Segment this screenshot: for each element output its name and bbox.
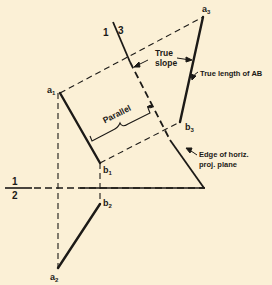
edge-plane-label-1: Edge of horiz. [199,150,249,159]
edge-plane-arrow [186,148,197,155]
fold-1-2-label-top: 1 [12,176,18,187]
parallel-label: Parallel [101,103,132,126]
point-a1-label: a1 [47,85,56,96]
fold-1-3-label-right: 3 [118,25,124,36]
point-b1-label: b1 [103,165,113,176]
right-angle-mark [147,105,153,108]
auxiliary-view-diagram: Parallel True slope True length of AB Ed… [0,0,272,285]
point-b3-label: b3 [185,122,195,133]
true-slope-label-1: True [155,48,173,58]
true-slope-label-2: slope [155,58,177,68]
true-length-label: True length of AB [200,69,263,78]
fold-1-2-label-bottom: 2 [12,190,18,201]
edge-plane-label-2: proj. plane [199,160,237,169]
point-b2-label: b2 [103,198,113,209]
projector-a1-a3 [60,17,203,93]
point-a2-label: a2 [50,272,59,283]
projection-lines [58,17,203,268]
line-ab-views [58,17,203,268]
projector-b1-b3 [100,122,180,163]
point-a3-label: a3 [202,4,211,15]
line-a1-b1 [60,93,100,163]
true-length-arrow [191,72,198,80]
line-a2-b2 [58,204,100,268]
fold-1-3-label-left: 1 [103,27,109,38]
